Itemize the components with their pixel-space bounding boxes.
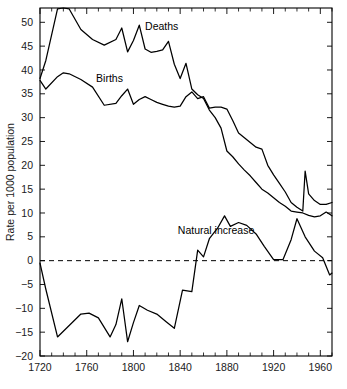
x-tick-label: 1880 <box>215 361 239 373</box>
y-tick-label: 15 <box>21 183 33 195</box>
y-tick-label: −20 <box>15 350 33 362</box>
y-tick-label: −5 <box>21 278 33 290</box>
annotation-natural-increase: Natural increase <box>178 224 255 236</box>
x-tick-label: 1840 <box>169 361 193 373</box>
x-tick-label: 1960 <box>309 361 333 373</box>
y-axis-title: Rate per 1000 population <box>4 123 16 241</box>
plot-background <box>40 8 332 356</box>
y-axis-tick-labels: −20−15−10−505101520253035404550 <box>15 16 33 362</box>
y-tick-label: 35 <box>21 87 33 99</box>
x-tick-label: 1760 <box>75 361 99 373</box>
x-tick-label: 1720 <box>28 361 52 373</box>
annotation-births: Births <box>96 72 123 84</box>
x-tick-label: 1800 <box>122 361 146 373</box>
x-axis-tick-labels: 1720176018001840188019201960 <box>28 361 332 373</box>
y-tick-label: 40 <box>21 64 33 76</box>
y-tick-label: 50 <box>21 16 33 28</box>
vital-rates-chart: −20−15−10−505101520253035404550 17201760… <box>0 0 347 389</box>
y-tick-label: −10 <box>15 302 33 314</box>
y-tick-label: 45 <box>21 40 33 52</box>
y-tick-label: −15 <box>15 326 33 338</box>
y-tick-label: 25 <box>21 135 33 147</box>
x-tick-label: 1920 <box>262 361 286 373</box>
y-tick-label: 10 <box>21 207 33 219</box>
annotation-deaths: Deaths <box>145 20 178 32</box>
y-tick-label: 20 <box>21 159 33 171</box>
y-tick-label: 30 <box>21 111 33 123</box>
y-tick-label: 5 <box>27 230 33 242</box>
y-tick-label: 0 <box>27 254 33 266</box>
plot-area <box>40 8 332 356</box>
chart-canvas: −20−15−10−505101520253035404550 17201760… <box>0 0 347 389</box>
